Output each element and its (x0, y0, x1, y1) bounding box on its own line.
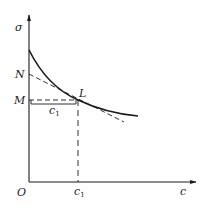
stress-curve (29, 50, 138, 116)
diagram-canvas: σ N M L c1 O c1 c (0, 0, 212, 210)
point-n-label: N (14, 68, 25, 81)
brace-c1-label: c1 (49, 104, 60, 118)
tangent-line (29, 74, 124, 122)
x-tick-c1-label: c1 (74, 185, 85, 199)
origin-label: O (17, 186, 26, 199)
point-m-label: M (13, 94, 26, 107)
y-axis-label: σ (15, 21, 23, 34)
x-axis-label: c (180, 185, 186, 198)
point-l-label: L (78, 87, 86, 100)
